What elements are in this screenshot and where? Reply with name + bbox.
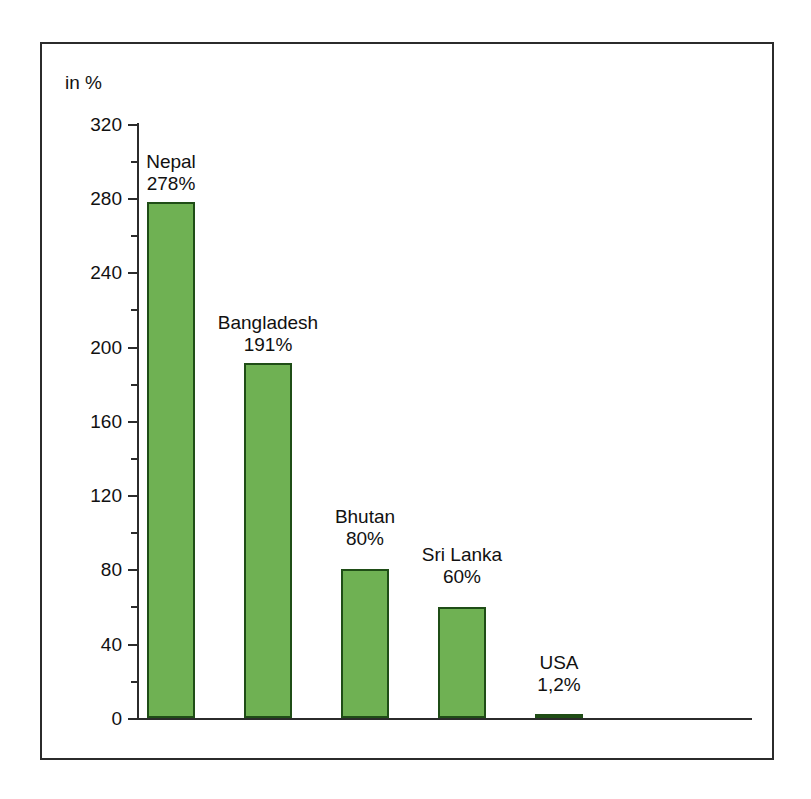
bar-usa[interactable] [535, 714, 583, 718]
y-tick-140 [131, 458, 138, 460]
y-tick-label-280: 280 [66, 189, 122, 208]
bar-label-sri-lanka: Sri Lanka [422, 544, 502, 566]
bar-bangladesh[interactable] [244, 363, 292, 718]
y-tick-240 [128, 272, 138, 274]
bar-caption-sri-lanka: Sri Lanka 60% [422, 544, 502, 588]
y-tick-label-80: 80 [66, 560, 122, 579]
bar-nepal[interactable] [147, 202, 195, 718]
bar-value-bhutan: 80% [335, 528, 395, 550]
bar-value-usa: 1,2% [537, 674, 580, 696]
bar-label-bangladesh: Bangladesh [218, 312, 318, 334]
bar-caption-nepal: Nepal 278% [146, 151, 196, 195]
y-tick-label-320: 320 [66, 115, 122, 134]
top-caption [30, 0, 330, 10]
bar-sri-lanka[interactable] [438, 607, 486, 718]
bar-value-sri-lanka: 60% [422, 566, 502, 588]
y-tick-200 [128, 347, 138, 349]
y-tick-20 [131, 681, 138, 683]
y-tick-80 [128, 569, 138, 571]
bar-label-nepal: Nepal [146, 151, 196, 173]
bar-caption-usa: USA 1,2% [537, 652, 580, 696]
y-tick-label-240: 240 [66, 263, 122, 282]
y-tick-100 [131, 532, 138, 534]
bar-caption-bhutan: Bhutan 80% [335, 506, 395, 550]
x-axis-line [137, 718, 752, 720]
y-tick-label-120: 120 [66, 486, 122, 505]
y-tick-label-40: 40 [66, 635, 122, 654]
bar-label-bhutan: Bhutan [335, 506, 395, 528]
y-tick-label-200: 200 [66, 338, 122, 357]
y-tick-60 [131, 606, 138, 608]
chart-frame: in % 320 280 240 200 160 120 80 40 0 [40, 42, 774, 760]
y-tick-260 [131, 235, 138, 237]
bar-value-bangladesh: 191% [218, 334, 318, 356]
y-tick-label-160: 160 [66, 412, 122, 431]
y-tick-180 [131, 384, 138, 386]
y-tick-300 [131, 161, 138, 163]
bar-label-usa: USA [537, 652, 580, 674]
bar-value-nepal: 278% [146, 173, 196, 195]
y-tick-280 [128, 198, 138, 200]
plot-area: 320 280 240 200 160 120 80 40 0 Nepal 27… [42, 44, 776, 762]
y-tick-40 [128, 644, 138, 646]
y-tick-0 [128, 718, 138, 720]
y-tick-220 [131, 309, 138, 311]
bar-bhutan[interactable] [341, 569, 389, 718]
bar-caption-bangladesh: Bangladesh 191% [218, 312, 318, 356]
y-tick-320 [128, 124, 138, 126]
y-tick-label-0: 0 [66, 709, 122, 728]
y-tick-160 [128, 421, 138, 423]
y-tick-120 [128, 495, 138, 497]
